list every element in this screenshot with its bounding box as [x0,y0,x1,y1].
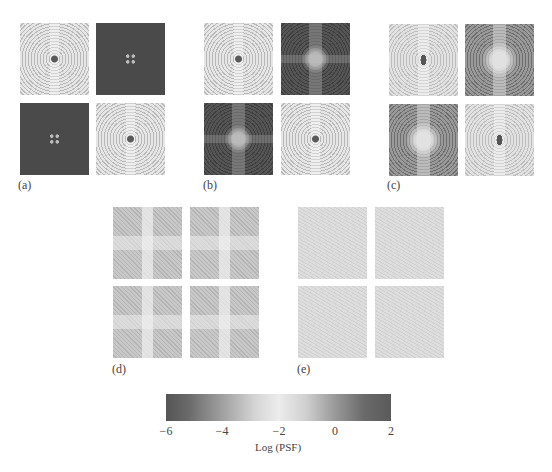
psf-tile-c-3 [389,104,458,176]
psf-tile-d-1 [113,207,182,279]
psf-tile-e-2 [375,207,444,279]
panel-label-e: (e) [297,362,310,377]
psf-tile-c-2 [465,24,534,96]
psf-tile-c-1 [389,24,458,96]
psf-tile-e-3 [298,286,367,358]
psf-tile-a-4 [96,103,165,175]
colorbar-tick: 2 [388,424,394,439]
colorbar-tick: −6 [160,424,173,439]
psf-tile-a-2 [96,23,165,95]
psf-tile-a-1 [20,23,89,95]
psf-tile-a-3 [20,103,89,175]
colorbar-tick: 0 [332,424,338,439]
psf-tile-d-3 [113,286,182,358]
colorbar-title: Log (PSF) [255,441,301,453]
psf-tile-b-4 [281,103,350,175]
psf-tile-d-2 [190,207,259,279]
panel-label-c: (c) [387,178,400,193]
colorbar-tick: −4 [216,424,229,439]
psf-tile-e-1 [298,207,367,279]
panel-label-d: (d) [112,362,126,377]
psf-tile-b-2 [281,23,350,95]
psf-tile-c-4 [465,104,534,176]
psf-tile-e-4 [375,286,444,358]
colorbar-tick: −2 [273,424,286,439]
psf-tile-b-3 [204,103,273,175]
psf-tile-b-1 [204,23,273,95]
panel-label-b: (b) [203,178,217,193]
psf-tile-d-4 [190,286,259,358]
panel-label-a: (a) [18,178,31,193]
colorbar-gradient [166,394,391,421]
